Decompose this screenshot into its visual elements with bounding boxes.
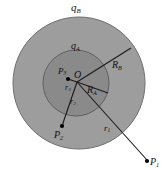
label-radius-RA-sub: A (93, 89, 97, 96)
label-radius-RB: RB (112, 60, 122, 71)
label-charge-qA-sub: A (76, 45, 80, 52)
label-point-P2-sub: 2 (60, 134, 63, 141)
label-distance-r2: r2 (70, 98, 76, 107)
label-distance-r3: r3 (65, 84, 71, 93)
physics-diagram-canvas: qB qA O RB RA P3 r3 r2 P2 r1 P1 (0, 0, 162, 170)
label-distance-r1-sub: 1 (108, 127, 111, 133)
diagram-svg (0, 0, 162, 170)
label-charge-qB: qB (71, 2, 81, 15)
label-radius-RA: RA (87, 85, 97, 96)
label-charge-qB-sub: B (77, 7, 81, 14)
label-point-P1: P1 (150, 157, 159, 168)
label-point-P1-sub: 1 (156, 161, 159, 168)
point-P3-dot (66, 77, 70, 81)
label-point-P3-sub: 3 (64, 70, 67, 76)
point-P2-dot (60, 124, 64, 128)
label-distance-r1: r1 (104, 124, 110, 134)
label-distance-r3-sub: 3 (68, 87, 70, 92)
label-distance-r2-sub: 2 (73, 101, 75, 106)
label-radius-RB-sub: B (118, 64, 122, 71)
label-charge-qA: qA (71, 41, 80, 52)
label-point-P2: P2 (54, 130, 63, 141)
point-P1-dot (145, 159, 149, 163)
label-point-P3: P3 (58, 67, 66, 77)
label-origin-O: O (74, 70, 81, 80)
